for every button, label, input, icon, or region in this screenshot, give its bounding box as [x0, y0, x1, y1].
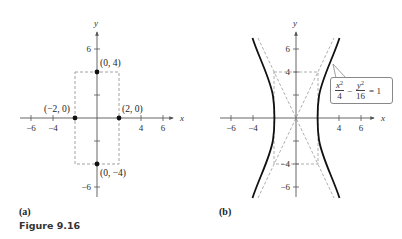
equation-label: x2 4 − y2 16 = 1 — [330, 77, 393, 104]
y-tick-label: −4 — [280, 159, 290, 169]
x-axis-name: x — [179, 113, 184, 123]
x-tick-label: −6 — [26, 123, 36, 133]
point-label: (2, 0) — [122, 104, 143, 115]
panel-b-label: (b) — [219, 206, 231, 217]
y-tick-label: −6 — [81, 182, 91, 192]
panel-a-label: (a) — [19, 206, 31, 217]
equation-rhs: = 1 — [369, 86, 381, 96]
point-0-neg4 — [95, 162, 100, 167]
x-tick-label: 4 — [337, 123, 342, 133]
x-tick-label: 6 — [359, 123, 364, 133]
x-tick-label: −4 — [248, 123, 258, 133]
fraction-y-squared-over-16: y2 16 — [355, 80, 366, 101]
point-label: (0, −4) — [100, 168, 126, 179]
point-2-0 — [117, 116, 122, 121]
point-0-4 — [95, 70, 100, 75]
y-tick-label: 6 — [87, 44, 92, 54]
x-axis-name: x — [380, 113, 385, 123]
panel-a-plot: −6 −4 4 6 6 −6 x y (0, 4) (−2, 0) (2, 0)… — [20, 18, 184, 197]
point-neg2-0 — [73, 116, 78, 121]
x-tick-label: 6 — [161, 123, 166, 133]
y-axis-name: y — [93, 18, 98, 28]
x-tick-label: 4 — [139, 123, 144, 133]
y-axis-name: y — [292, 18, 297, 28]
point-label: (−2, 0) — [44, 104, 70, 115]
x-tick-label: −4 — [48, 123, 58, 133]
minus-sign: − — [347, 86, 352, 96]
y-tick-label: 6 — [286, 44, 291, 54]
panel-b-plot: −6 −4 4 6 6 4 −4 −6 x y — [220, 18, 385, 198]
equation-callout-pointer — [333, 64, 346, 78]
fraction-x-squared-over-4: x2 4 — [335, 80, 344, 101]
figure-canvas: −6 −4 4 6 6 −6 x y (0, 4) (−2, 0) (2, 0)… — [0, 0, 402, 239]
y-tick-label: 4 — [286, 67, 291, 77]
y-tick-label: −6 — [280, 182, 290, 192]
point-label: (0, 4) — [100, 58, 121, 69]
figure-caption: Figure 9.16 — [19, 220, 80, 231]
x-tick-label: −6 — [226, 123, 236, 133]
